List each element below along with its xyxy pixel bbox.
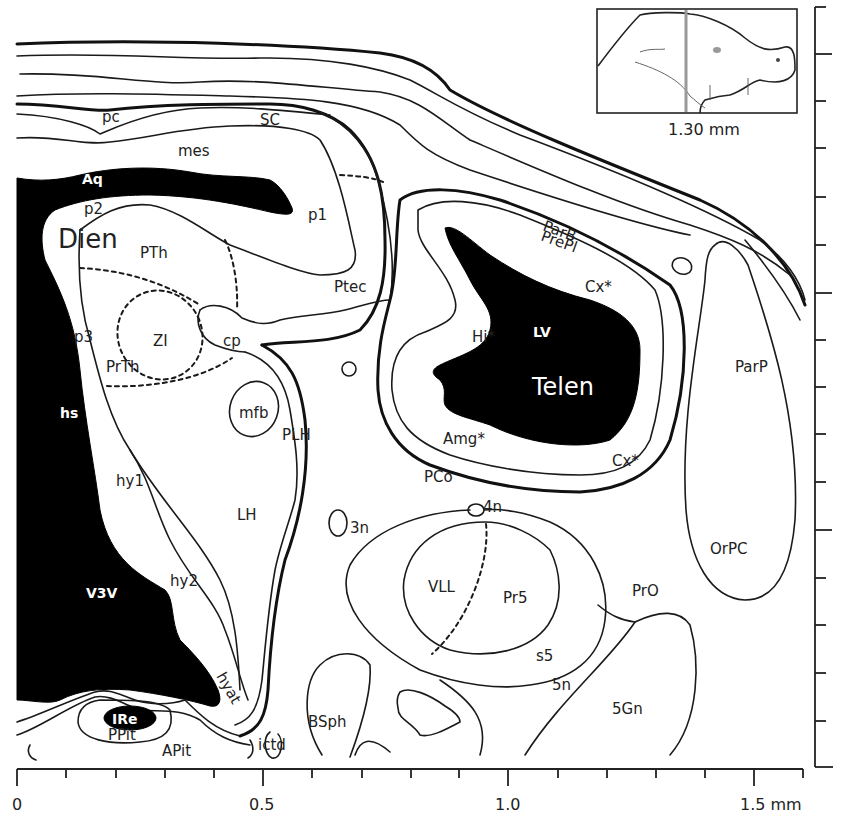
label-cp: cp [223,332,241,350]
scale-label-1-0: 1.0 [495,795,520,814]
label-pr5: Pr5 [503,589,528,607]
label-s5: s5 [536,647,553,665]
label-apit: APit [162,742,191,760]
orientation-inset: 1.30 mm [597,9,797,139]
label-mfb: mfb [239,404,268,422]
label-prth: PrTh [106,358,140,376]
label-pro: PrO [632,582,659,600]
label-ppit: PPit [108,726,136,744]
label-3n: 3n [350,519,369,537]
label-lv: LV [533,324,551,340]
label-sc: SC [260,111,280,129]
label-lh: LH [237,506,257,524]
label-v3v: V3V [86,585,118,601]
inset-frame [597,9,797,113]
label-zi: ZI [153,332,168,350]
label-dien: Dien [58,224,118,254]
telencephalon: ParB PrePl Cx* Hi* LV Telen Amg* Cx* PCo [342,190,694,492]
inset-caption: 1.30 mm [668,120,740,139]
label-p1: p1 [308,206,327,224]
label-pc: pc [102,108,120,126]
label-5n: 5n [552,676,571,694]
label-mes: mes [178,142,210,160]
label-pth: PTh [140,244,168,262]
label-hi: Hi* [472,328,495,346]
label-4n: 4n [483,498,502,516]
label-hs: hs [60,405,78,421]
label-telen: Telen [531,373,594,401]
label-amg: Amg* [443,430,485,448]
label-cx-top: Cx* [585,278,612,296]
label-ictd: ictd [258,736,286,754]
scale-label-0-5: 0.5 [249,795,274,814]
label-hy1: hy1 [116,472,144,490]
brain-section-diagram: Aq hs V3V IRe PPit APit ictd ParB [0,0,852,840]
label-orpc: OrPC [710,540,748,558]
brainstem-regions: 3n 4n VLL Pr5 s5 5n PrO 5Gn BSph [307,498,696,757]
label-plh: PLH [282,426,311,444]
label-aq: Aq [82,171,103,187]
parp-orpc-lobe: ParP OrPC [685,240,800,600]
label-ire: IRe [112,711,137,727]
label-parp: ParP [735,358,768,376]
label-cx-bottom: Cx* [612,452,639,470]
label-bsph: BSph [308,713,347,731]
label-p3: p3 [74,328,93,346]
vertical-scale-bar [815,7,833,767]
scale-label-0: 0 [12,795,22,814]
label-ptec: Ptec [334,278,366,296]
scale-label-1-5-mm: 1.5 mm [740,795,802,814]
label-pco: PCo [424,468,453,486]
label-hy2: hy2 [170,572,198,590]
label-5gn: 5Gn [612,700,643,718]
inset-eye-marker [713,47,721,53]
label-p2: p2 [84,200,103,218]
label-vll: VLL [428,578,456,596]
horizontal-scale-bar: 0 0.5 1.0 1.5 mm [12,769,803,814]
